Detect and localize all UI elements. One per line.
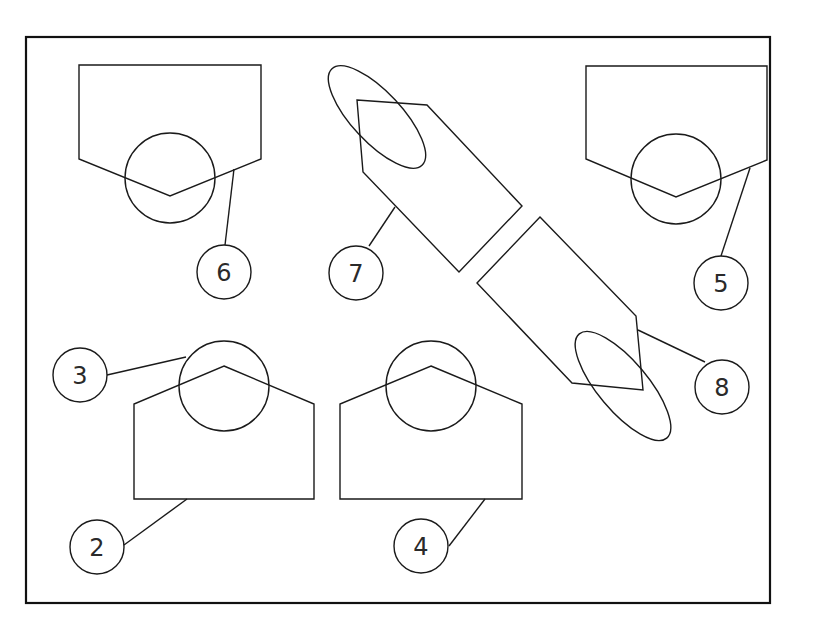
part-6-leader <box>225 169 234 245</box>
callout-7-label: 7 <box>348 260 363 288</box>
callout-6-label: 6 <box>216 259 231 287</box>
part-2-3: 3 2 <box>53 341 314 574</box>
callout-8-label: 8 <box>714 374 729 402</box>
callout-5-label: 5 <box>713 270 728 298</box>
part-5: 5 <box>586 66 767 310</box>
part-7-leader <box>369 207 395 246</box>
part-4-circle <box>386 341 476 431</box>
part-5-leader <box>721 168 750 256</box>
part-4-outline <box>340 366 522 499</box>
part-4-leader <box>449 499 485 546</box>
part-7-ellipse <box>314 52 441 183</box>
callout-4-label: 4 <box>413 533 428 561</box>
drawing-canvas: 6 5 3 2 4 7 8 <box>0 0 820 628</box>
part-8-outline <box>477 217 643 390</box>
part-8: 8 <box>477 217 749 454</box>
drawing-frame <box>26 37 770 603</box>
part-2-leader <box>124 499 187 545</box>
part-4: 4 <box>340 341 522 573</box>
callout-3-label: 3 <box>72 362 87 390</box>
part-3-leader <box>107 357 186 375</box>
part-8-ellipse <box>560 318 686 454</box>
part-5-outline <box>586 66 767 197</box>
callout-2-label: 2 <box>89 534 104 562</box>
part-7: 7 <box>314 52 522 300</box>
part-7-outline <box>357 100 522 272</box>
part-6: 6 <box>79 65 261 299</box>
part-8-leader <box>638 330 705 362</box>
part-6-circle <box>125 133 215 223</box>
part-5-circle <box>631 134 721 224</box>
part-2-outline <box>134 366 314 499</box>
part-3-circle <box>179 341 269 431</box>
